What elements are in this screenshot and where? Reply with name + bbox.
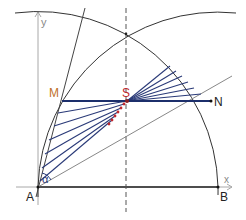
label-x: x xyxy=(224,174,229,185)
label-a: A xyxy=(26,190,34,204)
label-s: S xyxy=(122,86,130,100)
fan-right xyxy=(127,66,201,101)
steep-line xyxy=(36,8,85,197)
label-m: M xyxy=(49,86,59,100)
point-n xyxy=(210,100,213,103)
fan-left xyxy=(40,101,127,181)
y-axis xyxy=(35,12,41,205)
label-n: N xyxy=(214,95,223,109)
label-y: y xyxy=(41,16,47,28)
label-alpha: α xyxy=(42,173,49,185)
geometry-diagram: y x M S N A B α xyxy=(0,0,246,220)
label-b: B xyxy=(220,190,228,204)
arc-intersection xyxy=(125,33,128,36)
point-b xyxy=(217,186,220,189)
point-a xyxy=(37,186,40,189)
arc-centered-b xyxy=(38,12,236,197)
